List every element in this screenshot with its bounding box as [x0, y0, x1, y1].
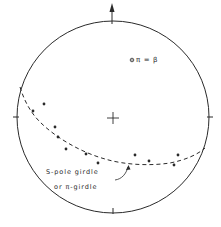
girdle-label-line1: S-pole girdle	[46, 169, 99, 176]
pi-beta-label: π = β	[136, 57, 158, 64]
label-pointer-arrow-icon	[115, 165, 131, 180]
stereonet-plot	[0, 0, 221, 227]
stereonet-diagram: π = β S-pole girdle or π-girdle	[0, 0, 221, 227]
center-cross-icon	[107, 112, 119, 124]
pole-points	[32, 103, 180, 167]
pi-beta-point-icon	[130, 58, 134, 62]
girdle-label-line2: or π-girdle	[54, 184, 97, 191]
girdle-dashed-curve	[20, 87, 205, 165]
